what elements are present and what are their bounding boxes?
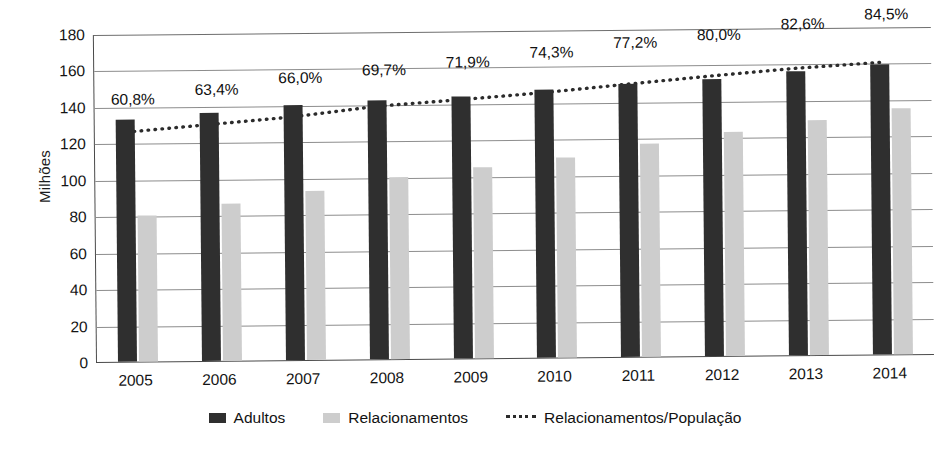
bar-adultos[interactable] [870,65,892,355]
x-axis-tick-label: 2014 [847,364,933,383]
y-axis-tick-label: 80 [69,208,86,226]
bar-relacionamentos[interactable] [389,177,410,359]
bar-group[interactable]: 74,3%2010 [526,30,586,358]
percent-data-label: 60,8% [90,90,176,109]
bar-group[interactable]: 71,9%2009 [442,31,502,359]
x-axis-tick-label: 2007 [260,370,346,389]
percent-data-label: 74,3% [508,43,594,62]
x-axis-tick-label: 2005 [92,371,178,390]
x-axis-tick-label: 2011 [595,366,681,385]
bar-group[interactable]: 69,7%2008 [359,32,419,360]
y-axis-tick-label: 40 [70,281,87,299]
y-axis-tick-label: 120 [60,135,86,153]
legend-item[interactable]: Relacionamentos [323,409,468,427]
x-axis-tick-label: 2008 [344,369,430,388]
bar-adultos[interactable] [619,83,641,356]
bar-relacionamentos[interactable] [640,143,661,356]
percent-data-label: 84,5% [843,5,929,24]
percent-data-label: 71,9% [425,53,511,72]
dotted-line-icon [506,415,536,421]
percent-data-label: 66,0% [257,69,343,88]
bar-group[interactable]: 77,2%2011 [610,30,670,358]
y-axis-tick-label: 140 [60,99,86,117]
bar-group[interactable]: 84,5%2014 [861,27,921,355]
y-axis-title: Milhões [36,117,53,237]
bar-groups: 60,8%200563,4%200666,0%200769,7%200871,9… [94,27,934,362]
dark-square-icon [209,413,226,423]
bar-adultos[interactable] [367,100,388,359]
bar-adultos[interactable] [116,119,137,362]
bar-relacionamentos[interactable] [473,167,494,359]
percent-data-label: 77,2% [592,34,678,53]
bar-group[interactable]: 66,0%2007 [275,33,335,361]
legend-item-label: Relacionamentos/População [544,409,741,427]
bar-relacionamentos[interactable] [556,157,577,358]
bar-adultos[interactable] [284,105,305,360]
y-axis-tick-label: 20 [70,318,87,336]
x-axis-tick-label: 2009 [428,368,514,387]
legend-item[interactable]: Adultos [209,409,286,427]
y-axis-tick-label: 60 [70,245,87,263]
bar-group[interactable]: 60,8%2005 [107,34,167,362]
y-axis-tick-label: 180 [59,26,85,44]
x-axis-tick-label: 2012 [679,366,765,385]
bar-group[interactable]: 63,4%2006 [191,34,251,362]
chart-legend: AdultosRelacionamentosRelacionamentos/Po… [0,409,950,427]
percent-data-label: 80,0% [676,26,762,45]
light-square-icon [323,413,340,423]
bar-relacionamentos[interactable] [724,132,745,356]
bar-relacionamentos[interactable] [222,204,243,361]
bar-relacionamentos[interactable] [138,216,158,362]
y-axis-tick-label: 100 [60,172,86,190]
bar-adultos[interactable] [702,79,724,356]
y-axis-tick-label: 160 [59,63,85,81]
percent-data-label: 82,6% [759,14,845,33]
bar-group[interactable]: 80,0%2012 [694,29,754,357]
bar-relacionamentos[interactable] [807,120,828,355]
bar-adultos[interactable] [535,90,557,358]
percent-data-label: 63,4% [173,80,259,99]
legend-item-label: Adultos [234,409,286,427]
legend-item-label: Relacionamentos [348,409,468,427]
bar-adultos[interactable] [451,96,473,359]
chart-figure: Milhões 020406080100120140160180 60,8%20… [0,0,950,454]
bar-adultos[interactable] [200,113,221,361]
bar-relacionamentos[interactable] [891,108,912,354]
x-axis-tick-label: 2010 [511,367,597,386]
x-axis-tick-label: 2006 [176,370,262,389]
bar-adultos[interactable] [786,71,808,355]
bar-group[interactable]: 82,6%2013 [778,28,838,356]
y-axis-tick-label: 0 [79,354,88,372]
legend-item[interactable]: Relacionamentos/População [506,409,741,427]
percent-data-label: 69,7% [341,61,427,80]
x-axis-tick-label: 2013 [763,365,849,384]
bar-relacionamentos[interactable] [305,190,326,360]
plot-area: 020406080100120140160180 60,8%200563,4%2… [93,27,934,363]
